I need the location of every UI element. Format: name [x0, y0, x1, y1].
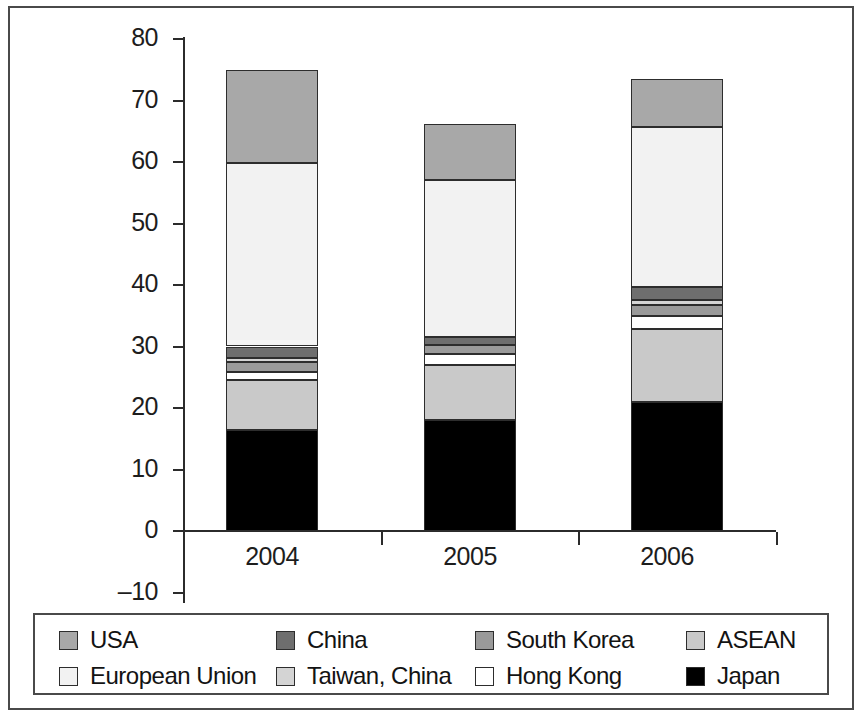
y-axis-tick-label-text: 40 — [96, 269, 158, 298]
bar-segment — [226, 347, 318, 358]
y-axis-line — [183, 37, 185, 603]
x-axis-label: 2004 — [182, 542, 362, 571]
bar-segment — [226, 163, 318, 347]
legend-item-label: Hong Kong — [506, 662, 622, 690]
y-axis-tick-label: 80 — [96, 23, 158, 53]
bar-segment — [424, 337, 516, 345]
legend-swatch-icon — [686, 667, 705, 686]
y-axis-tick — [173, 469, 184, 471]
legend-item-label: China — [307, 626, 367, 654]
legend-item-label: Taiwan, China — [307, 662, 451, 690]
bar-segment — [631, 316, 723, 328]
x-axis-label: 2006 — [577, 542, 757, 571]
y-axis-tick-label: 0 — [96, 515, 158, 545]
legend-item: USA — [59, 626, 138, 654]
legend-item: South Korea — [475, 626, 634, 654]
bar-segment — [424, 354, 516, 365]
bar-segment — [226, 70, 318, 163]
y-axis-tick-label: 20 — [96, 392, 158, 422]
y-axis-tick-label: 70 — [96, 85, 158, 115]
y-axis-tick — [173, 346, 184, 348]
y-axis-tick — [173, 161, 184, 163]
legend-item-label: Japan — [717, 662, 780, 690]
y-axis-tick-label-text: –10 — [96, 577, 158, 606]
y-axis-tick-label-text: 60 — [96, 146, 158, 175]
legend-item: ASEAN — [686, 626, 796, 654]
x-axis-label: 2005 — [380, 542, 560, 571]
bar-segment — [631, 127, 723, 287]
bar-segment — [631, 300, 723, 306]
legend-item-label: USA — [90, 626, 138, 654]
legend-item: Hong Kong — [475, 662, 622, 690]
legend-swatch-icon — [59, 667, 78, 686]
legend-item: Taiwan, China — [276, 662, 451, 690]
plot-area: 80706050403020100–10 200420052006 — [0, 0, 862, 600]
bar-segment — [226, 362, 318, 372]
y-axis-tick — [173, 38, 184, 40]
bar-segment — [226, 358, 318, 363]
bar-segment — [226, 372, 318, 380]
y-axis-tick-label: 60 — [96, 146, 158, 176]
legend-item-label: ASEAN — [717, 626, 796, 654]
bar-segment — [631, 79, 723, 127]
legend-item: European Union — [59, 662, 256, 690]
y-axis-tick — [173, 284, 184, 286]
legend-item: Japan — [686, 662, 780, 690]
y-axis-tick-label-text: 80 — [96, 23, 158, 52]
bar-segment — [631, 402, 723, 531]
legend: USAChinaSouth KoreaASEANEuropean UnionTa… — [33, 613, 829, 695]
y-axis-tick-label-text: 10 — [96, 454, 158, 483]
y-axis-tick-label-text: 50 — [96, 208, 158, 237]
y-axis-tick-label: 30 — [96, 331, 158, 361]
legend-swatch-icon — [59, 631, 78, 650]
bar-stack — [226, 0, 318, 600]
bar-segment — [226, 380, 318, 430]
y-axis-tick — [173, 592, 184, 594]
bar-segment — [424, 180, 516, 337]
bar-segment — [631, 287, 723, 300]
y-axis-tick-label: 10 — [96, 454, 158, 484]
x-axis-tick — [776, 532, 778, 545]
bar-segment — [424, 365, 516, 420]
bar-segment — [226, 430, 318, 531]
bar-segment — [424, 345, 516, 354]
bar-segment — [424, 124, 516, 179]
bar-segment — [631, 329, 723, 402]
legend-swatch-icon — [276, 631, 295, 650]
y-axis-tick — [173, 407, 184, 409]
y-axis-tick-label-text: 0 — [96, 515, 158, 544]
bar-segment — [424, 420, 516, 531]
legend-item-label: European Union — [90, 662, 256, 690]
bar-stack — [424, 0, 516, 600]
y-axis-tick-label-text: 70 — [96, 85, 158, 114]
y-axis-tick-label: 40 — [96, 269, 158, 299]
y-axis-tick — [173, 223, 184, 225]
legend-item: China — [276, 626, 367, 654]
y-axis-tick-label: 50 — [96, 208, 158, 238]
bar-stack — [631, 0, 723, 600]
y-axis-tick — [173, 100, 184, 102]
figure-root: 80706050403020100–10 200420052006 USAChi… — [0, 0, 862, 717]
y-axis-tick-label: –10 — [96, 577, 158, 607]
legend-swatch-icon — [475, 631, 494, 650]
y-axis-tick-label-text: 20 — [96, 392, 158, 421]
bar-segment — [631, 305, 723, 316]
legend-swatch-icon — [276, 667, 295, 686]
legend-swatch-icon — [475, 667, 494, 686]
legend-swatch-icon — [686, 631, 705, 650]
legend-item-label: South Korea — [506, 626, 634, 654]
y-axis-tick-label-text: 30 — [96, 331, 158, 360]
